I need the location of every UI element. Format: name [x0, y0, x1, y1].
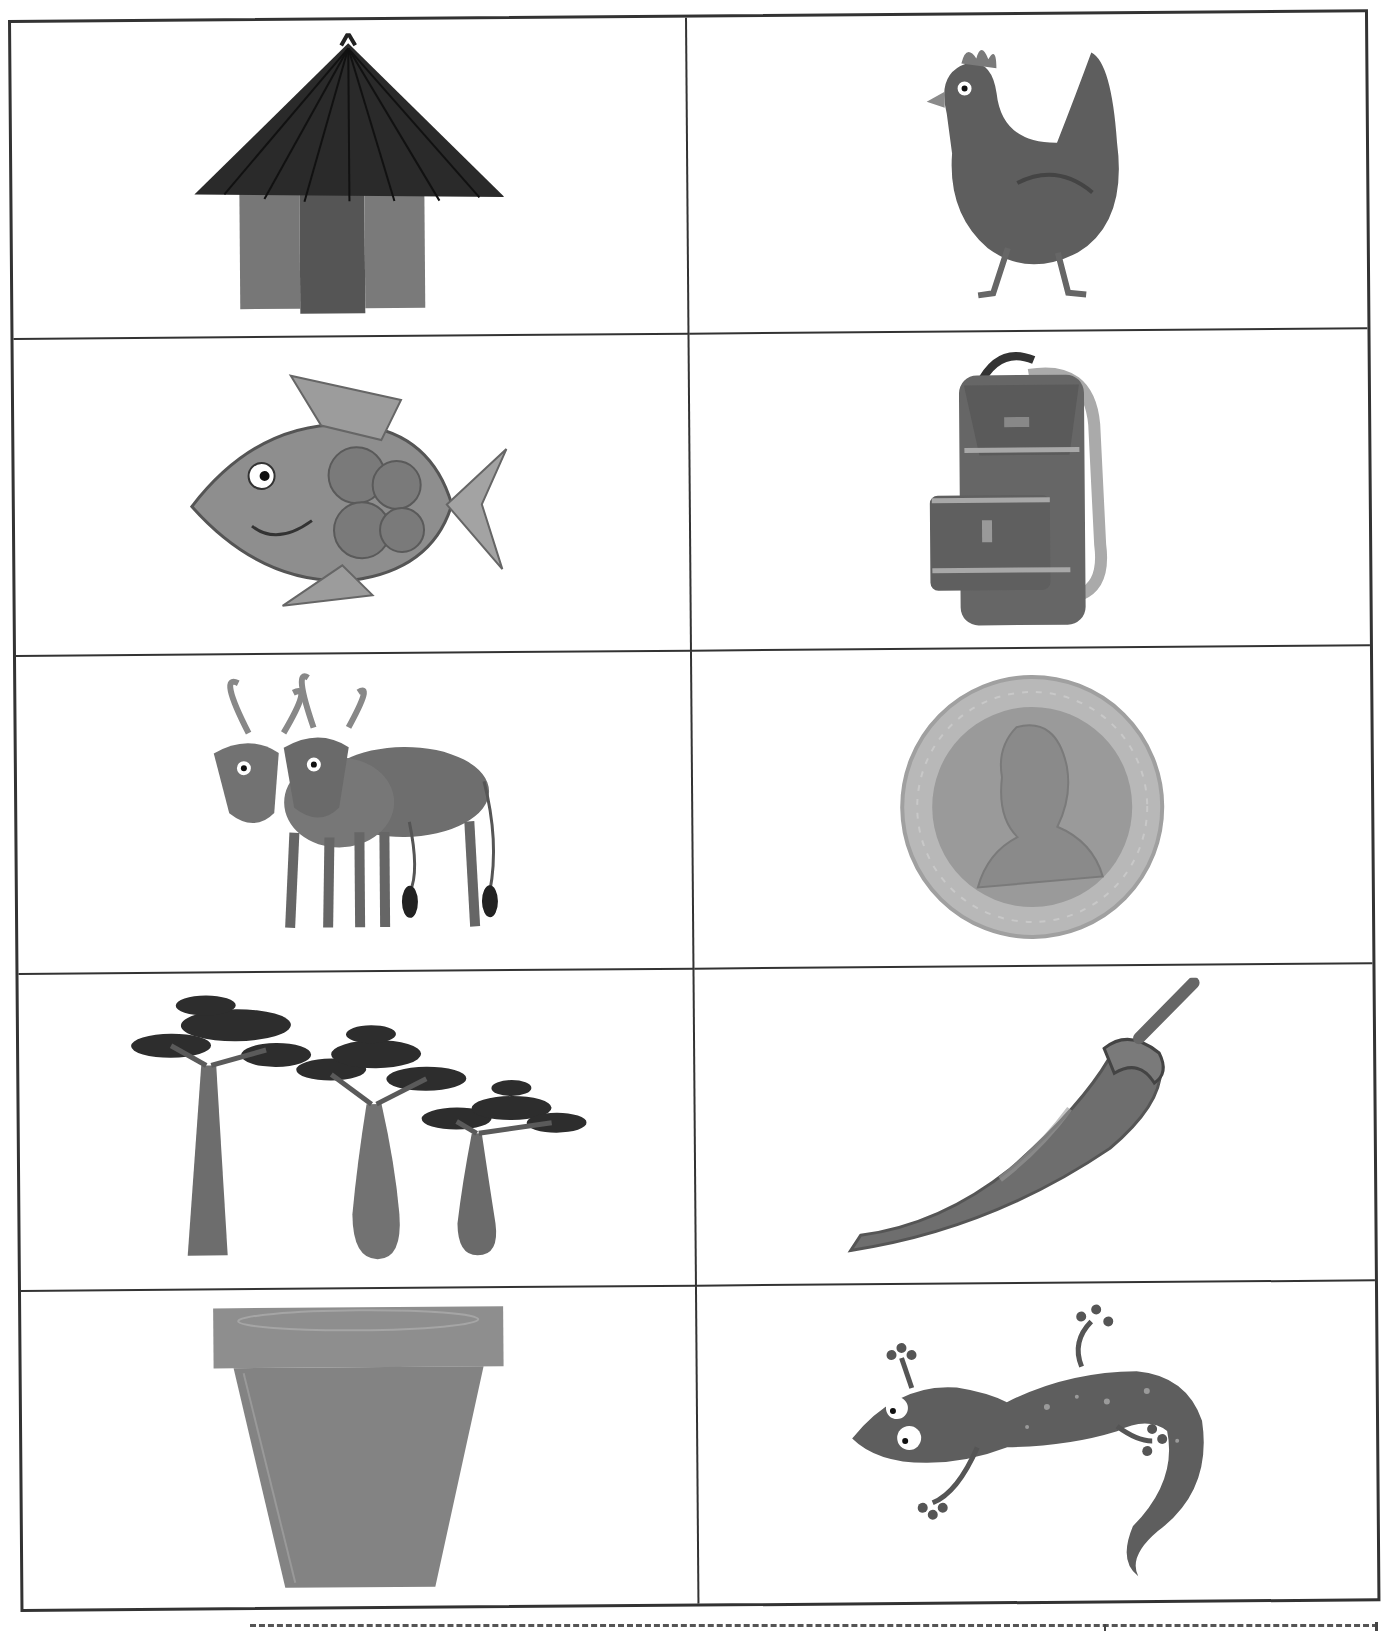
cut-line-dashed: [250, 1624, 1378, 1627]
lizard-icon: [846, 1291, 1228, 1594]
backpack-icon: [919, 344, 1141, 636]
pot-icon: [203, 1301, 515, 1593]
cell-hen: [687, 12, 1367, 335]
cell-chili-pepper: [694, 964, 1374, 1287]
chili-pepper-icon: [839, 978, 1231, 1271]
cell-lizard: [697, 1281, 1377, 1604]
baobab-trees-icon: [126, 983, 588, 1277]
picture-grid: [8, 9, 1380, 1612]
cell-backpack: [689, 330, 1369, 653]
cell-cattle: [16, 652, 694, 975]
worksheet-page: [0, 0, 1397, 1631]
cell-hut: [11, 18, 689, 340]
cell-baobab-trees: [18, 969, 696, 1292]
hen-icon: [906, 32, 1148, 314]
cell-fish: [14, 335, 692, 658]
fish-icon: [181, 354, 523, 637]
cattle-icon: [198, 671, 510, 953]
hut-icon: [183, 32, 515, 325]
cell-coin: [692, 647, 1372, 970]
coin-icon: [896, 666, 1168, 948]
cell-pot: [21, 1286, 699, 1609]
cut-line-end: [1375, 1622, 1378, 1631]
cut-line-tick: [1104, 1624, 1106, 1631]
